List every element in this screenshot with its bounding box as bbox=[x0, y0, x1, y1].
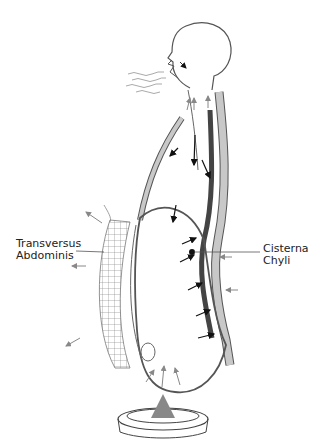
front-chest-wall bbox=[140, 118, 182, 220]
thoracic-duct bbox=[202, 110, 212, 338]
exhaled-breath-lines bbox=[126, 72, 166, 94]
label-line: Chyli bbox=[263, 255, 309, 267]
label-line: Abdominis bbox=[16, 250, 81, 262]
pubic-bone bbox=[141, 343, 155, 361]
anatomy-diagram bbox=[0, 0, 323, 441]
transversus-abdominis-label: Transversus Abdominis bbox=[16, 238, 81, 262]
abdominal-cavity bbox=[135, 208, 226, 392]
diagram-canvas: Transversus Abdominis Cisterna Chyli bbox=[0, 0, 323, 441]
head-outline bbox=[168, 23, 231, 90]
transversus-abdominis-mesh bbox=[99, 220, 130, 368]
cisterna-chyli-label: Cisterna Chyli bbox=[263, 243, 309, 267]
